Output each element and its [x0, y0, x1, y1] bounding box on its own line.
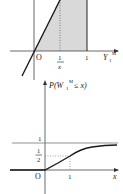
bottom-y-axis-label-sup: M [69, 79, 73, 84]
level-one-label: 1 [38, 135, 42, 143]
top-graph [10, 0, 119, 80]
top-tick-one: 1 [85, 54, 89, 62]
bottom-y-axis-label-suffix: ≤ x) [74, 81, 87, 90]
shaded-region [34, 0, 87, 51]
top-tick-inv-x-den: x [57, 63, 62, 71]
top-x-axis-label-sup: M [112, 51, 116, 56]
bottom-y-axis-label-prefix: P(W [48, 81, 65, 90]
top-x-axis-label-sub: 1 [109, 58, 112, 63]
cdf-curve [10, 145, 117, 170]
bottom-tick-one: 1 [68, 173, 72, 181]
half-den: 2 [37, 156, 40, 163]
bottom-origin-label: O [35, 172, 41, 181]
bottom-y-axis-label-sub: 1 [66, 86, 69, 91]
bottom-y-axis-arrow-icon [43, 80, 47, 85]
half-num: 1 [37, 147, 40, 154]
bottom-graph [10, 80, 119, 194]
bottom-x-axis-label: x [112, 172, 117, 181]
top-tick-inv-x-num: 1 [58, 54, 62, 62]
figure: O 1 x 1 Y 1 M P(W 1 M ≤ x) 1 1 2 O 1 x [0, 0, 123, 194]
top-origin-label: O [36, 53, 42, 62]
